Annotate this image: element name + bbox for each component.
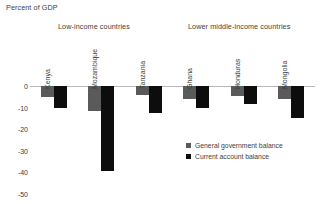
y-tick-label: -50 <box>6 190 28 197</box>
y-tick-label: -30 <box>6 147 28 154</box>
category-label-mozambique: Mozambique <box>91 49 98 89</box>
y-axis-ticks: 0-10-20-30-40-50 <box>0 0 28 204</box>
legend: General government balance Current accou… <box>186 142 283 164</box>
bar-honduras-current-account-balance <box>244 86 257 104</box>
chart-container: Percent of GDP Low-income countries Lowe… <box>0 0 321 204</box>
bar-tanzania-current-account-balance <box>149 86 162 113</box>
bar-mozambique-current-account-balance <box>101 86 114 171</box>
y-tick-label: -40 <box>6 169 28 176</box>
group-title-low-income: Low-income countries <box>58 22 130 31</box>
legend-item-general-government-balance: General government balance <box>186 142 283 149</box>
legend-item-current-account-balance: Current account balance <box>186 153 283 160</box>
legend-swatch-current-account-balance <box>186 154 191 159</box>
bar-mongolia-current-account-balance <box>291 86 304 118</box>
category-label-tanzania: Tanzania <box>139 61 146 89</box>
legend-label-general-government-balance: General government balance <box>195 142 283 149</box>
y-tick-label: 0 <box>6 83 28 90</box>
category-label-ghana: Ghana <box>186 68 193 89</box>
zero-baseline <box>30 86 315 87</box>
category-label-kenya: Kenya <box>44 69 51 89</box>
legend-swatch-general-government-balance <box>186 143 191 148</box>
bar-kenya-current-account-balance <box>54 86 67 108</box>
y-tick-label: -10 <box>6 104 28 111</box>
group-title-lower-middle-income: Lower middle-income countries <box>188 22 290 31</box>
legend-label-current-account-balance: Current account balance <box>195 153 269 160</box>
y-tick-label: -20 <box>6 126 28 133</box>
bar-ghana-current-account-balance <box>196 86 209 108</box>
category-label-mongolia: Mongolia <box>281 61 288 89</box>
category-label-honduras: Honduras <box>234 59 241 89</box>
bar-mozambique-general-government-balance <box>88 86 101 111</box>
